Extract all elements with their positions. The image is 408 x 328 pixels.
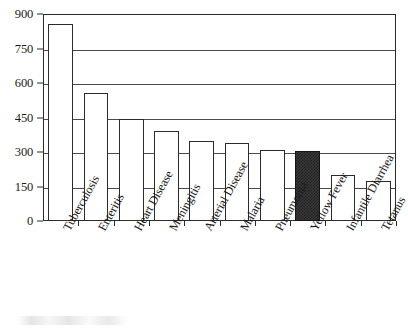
y-tick-label: 450 [15,111,33,124]
y-tick-label: 0 [27,215,33,228]
y-tick-label: 150 [15,180,33,193]
x-axis-labels: TuberculosisEnteritisHeart DiseaseMening… [43,227,396,323]
y-tick-label: 900 [15,8,33,21]
y-axis: 0150300450600750900 [0,0,43,328]
bar-tuberculosis [48,24,73,221]
y-tick-label: 750 [15,42,33,55]
y-tick-label: 600 [15,77,33,90]
page-artifact [18,316,128,325]
y-tick-label: 300 [15,146,33,159]
